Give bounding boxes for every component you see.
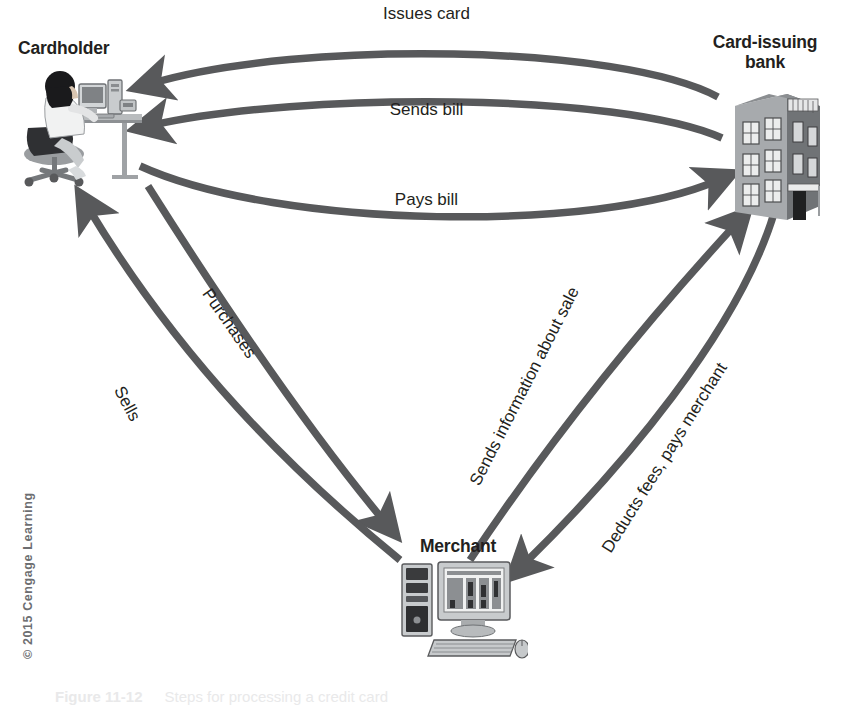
node-label-merchant: Merchant xyxy=(383,536,533,556)
desktop-computer-icon xyxy=(398,558,528,663)
copyright-notice: © 2015 Cengage Learning xyxy=(21,469,35,659)
node-label-card-issuing-bank: Card-issuing bank xyxy=(690,32,840,72)
figure-caption: Figure 11-12Steps for processing a credi… xyxy=(55,688,388,705)
arrow-sells xyxy=(89,209,400,560)
edge-label-sends-bill: Sends bill xyxy=(0,100,853,120)
arrow-deducts-fees-pays-merchant xyxy=(524,210,775,564)
figure-number: Figure 11-12 xyxy=(55,688,143,705)
node-label-cardholder: Cardholder xyxy=(18,38,168,58)
arrow-issues-card xyxy=(153,54,718,97)
person-at-computer-desk-icon xyxy=(16,62,144,192)
edge-label-pays-bill: Pays bill xyxy=(0,190,853,210)
arrow-purchases xyxy=(148,186,384,521)
figure-caption-text: Steps for processing a credit card xyxy=(165,688,388,705)
edge-label-issues-card: Issues card xyxy=(0,4,853,24)
